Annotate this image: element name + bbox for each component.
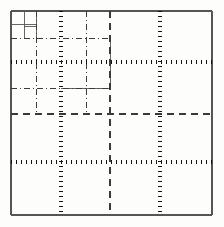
level1-dotted-group [11, 11, 212, 215]
quadtree-grid-figure [0, 0, 224, 227]
domain-border-group [11, 11, 212, 215]
level2-dashed-group [11, 11, 212, 215]
quadtree-grid-canvas [0, 0, 224, 227]
